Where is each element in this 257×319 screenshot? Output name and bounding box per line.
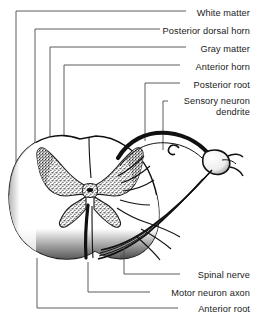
label-sensory-neuron-dendrite: Sensory neuron dendrite	[154, 96, 250, 117]
label-posterior-root: Posterior root	[193, 80, 250, 91]
spinal-cord-body	[0, 135, 170, 265]
label-gray-matter: Gray matter	[200, 44, 250, 55]
sensory-neuron-cell-body	[168, 145, 179, 155]
leader-motor-neuron-axon	[88, 262, 150, 292]
leader-anterior-root	[37, 258, 178, 308]
label-posterior-dorsal-horn: Posterior dorsal horn	[163, 26, 250, 37]
label-anterior-horn: Anterior horn	[196, 62, 250, 73]
label-white-matter: White matter	[197, 8, 250, 19]
label-spinal-nerve: Spinal nerve	[198, 270, 250, 281]
label-motor-neuron-axon: Motor neuron axon	[171, 288, 250, 299]
ganglion-process-lower	[230, 167, 243, 176]
spinal-cord-figure: White matter Posterior dorsal horn Gray …	[0, 0, 257, 319]
dorsal-root-ganglion	[203, 150, 230, 174]
ganglion-process-upper	[228, 154, 243, 157]
label-anterior-root: Anterior root	[198, 304, 250, 315]
central-canal	[87, 188, 93, 192]
